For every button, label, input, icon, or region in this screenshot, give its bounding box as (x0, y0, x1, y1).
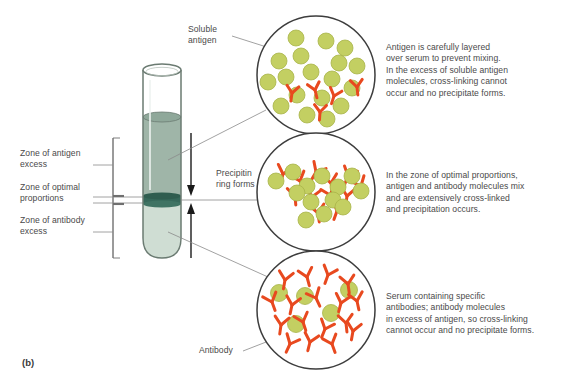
callout-label-precipitin-ring: Precipitin ring forms (216, 168, 272, 191)
description-antibody-excess: Serum containing specific antibodies; an… (386, 291, 576, 337)
precipitin-band-bottom (143, 201, 181, 208)
callout-label-soluble-antigen: Soluble antigen (188, 24, 236, 47)
description-antigen-excess: Antigen is carefully layered over serum … (386, 42, 571, 99)
antibody-diffusion-arrow (187, 203, 195, 258)
callout-label-antibody: Antibody (199, 345, 247, 356)
description-optimal-proportions: In the zone of optimal proportions, anti… (386, 170, 576, 216)
detail-leader-lines (168, 110, 268, 277)
tube-antigen-layer (143, 117, 181, 200)
antigen-excess-detail-circle (257, 16, 375, 134)
tube-serum-layer (143, 203, 181, 258)
test-tube (143, 64, 181, 258)
optimal-proportions-detail-circle (257, 133, 375, 251)
panel-tag: (b) (22, 357, 34, 368)
zone-label-optimal-proportions: Zone of optimal proportions (20, 182, 100, 205)
zone-label-antigen-excess: Zone of antigen excess (20, 148, 100, 171)
zone-label-antibody-excess: Zone of antibody excess (20, 215, 100, 238)
tube-meniscus (143, 112, 181, 122)
precipitin-ring-test-figure: Zone of antigen excess Zone of optimal p… (0, 0, 576, 384)
precipitin-band-top (143, 193, 181, 200)
zone-leader-lines (93, 165, 143, 232)
antigen-diffusion-arrow (187, 133, 195, 196)
antibody-excess-detail-circle (257, 251, 375, 369)
zone-bracket (113, 138, 120, 258)
